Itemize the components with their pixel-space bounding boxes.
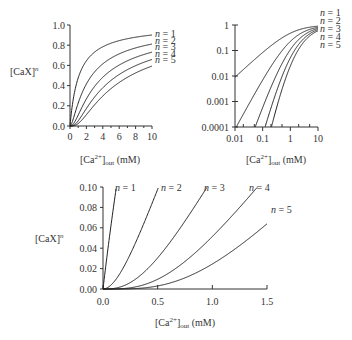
y-tick-label: 0.06 [80, 222, 98, 233]
y-tick-label: 0.1 [217, 45, 230, 56]
x-tick-label: 0.0 [97, 296, 110, 307]
x-axis-label: [Ca2+]out (mM) [246, 153, 306, 167]
y-axis-label: [CaX]n [35, 232, 64, 244]
x-tick-label: 0.5 [151, 296, 164, 307]
x-tick-label: 8 [133, 131, 138, 142]
x-tick-label: 1 [288, 133, 293, 144]
x-tick-label: 2 [84, 131, 89, 142]
chart-log-log: 0.00010.0010.010.110.010.1110n = 1n = 2n… [202, 7, 341, 167]
curve-n5 [70, 66, 152, 126]
x-tick-label: 6 [117, 131, 122, 142]
y-tick-label: 0.6 [53, 60, 66, 71]
curve-n1 [103, 189, 116, 289]
x-tick-label: 1.0 [206, 296, 219, 307]
chart-linear-full: 0.00.20.40.60.81.00246810n = 1n = 2n = 3… [10, 20, 176, 168]
y-tick-label: 0.10 [80, 182, 98, 193]
x-axis-label: [Ca2+]out (mM) [155, 316, 215, 330]
y-tick-label: 0.8 [53, 40, 66, 51]
y-tick-label: 0.2 [53, 100, 66, 111]
series-label: n = 1 [115, 182, 136, 193]
curve-n2 [103, 188, 158, 289]
x-tick-label: 0 [68, 131, 73, 142]
y-tick-label: 1 [224, 20, 229, 31]
chart-linear-zoom: 0.000.020.040.060.080.100.00.51.01.5n = … [35, 182, 292, 331]
x-tick-label: 0.01 [226, 133, 244, 144]
y-tick-label: 0.4 [53, 80, 66, 91]
x-axis-label: [Ca2+]out (mM) [80, 153, 140, 167]
x-tick-label: 10 [313, 133, 323, 144]
y-tick-label: 0.00 [80, 284, 98, 295]
y-tick-label: 0.0001 [202, 122, 230, 133]
series-label: n = 5 [320, 39, 341, 50]
y-tick-label: 1.0 [53, 20, 66, 31]
x-tick-label: 10 [147, 131, 157, 142]
series-label: n = 2 [161, 182, 182, 193]
x-tick-label: 0.1 [256, 133, 269, 144]
figure: 0.00.20.40.60.81.00246810n = 1n = 2n = 3… [0, 0, 352, 340]
curve-n5 [103, 224, 267, 289]
y-tick-label: 0.01 [212, 71, 230, 82]
y-tick-label: 0.08 [80, 202, 98, 213]
series-label: n = 3 [204, 182, 225, 193]
series-label: n = 5 [155, 54, 176, 65]
y-axis-label: [CaX]n [10, 65, 39, 77]
y-tick-label: 0.0 [53, 121, 66, 132]
y-tick-label: 0.02 [80, 263, 98, 274]
y-tick-label: 0.001 [207, 96, 230, 107]
y-tick-label: 0.04 [80, 243, 98, 254]
series-label: n = 5 [271, 204, 292, 215]
x-tick-label: 4 [100, 131, 105, 142]
x-tick-label: 1.5 [261, 296, 274, 307]
curve-n3 [103, 187, 207, 289]
curve-n2 [236, 27, 318, 126]
series-label: n = 4 [249, 182, 270, 193]
curve-n5 [272, 31, 318, 127]
curve-n4 [103, 187, 257, 289]
